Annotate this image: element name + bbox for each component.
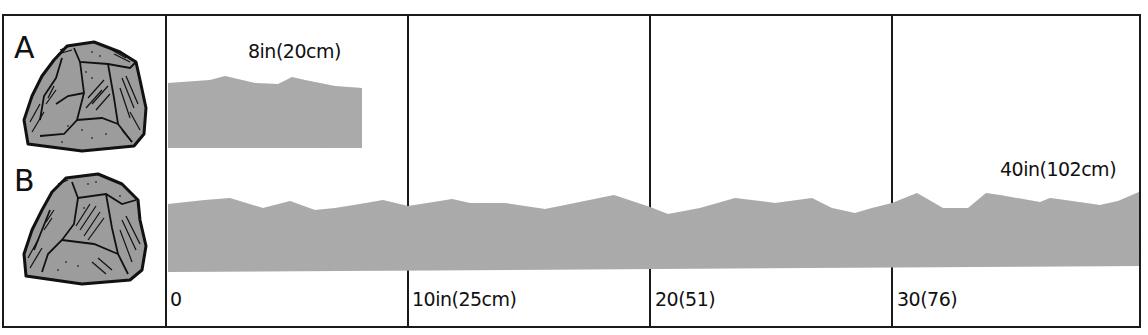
length-label-b: 40in(102cm) <box>1000 160 1116 179</box>
bar-a <box>168 76 362 148</box>
bar-b <box>168 192 1139 272</box>
length-label-a: 8in(20cm) <box>248 42 341 61</box>
rock-icon-a <box>22 38 152 158</box>
scale-tick-20: 20(51) <box>655 290 715 309</box>
scale-tick-30: 30(76) <box>897 290 957 309</box>
bars-layer <box>0 0 1148 335</box>
scale-tick-0: 0 <box>170 290 182 309</box>
rock-icon-b <box>22 170 152 290</box>
scale-tick-10: 10in(25cm) <box>412 290 516 309</box>
